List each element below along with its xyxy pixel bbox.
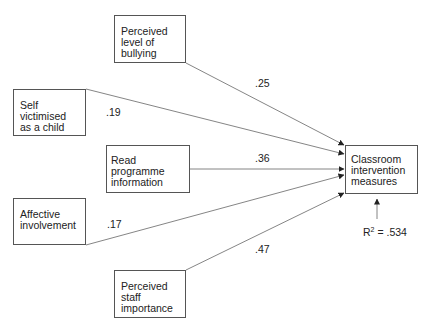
node-perceived-bullying: Perceived level of bullying bbox=[114, 15, 186, 63]
arrow-staff bbox=[186, 193, 344, 270]
coef-staff: .47 bbox=[255, 244, 270, 255]
coef-affective: .17 bbox=[107, 219, 122, 230]
coef-read: .36 bbox=[255, 153, 270, 164]
node-read-programme: Read programme information bbox=[106, 145, 190, 193]
node-self-victimised: Self victimised as a child bbox=[13, 89, 86, 136]
node-perceived-staff: Perceived staff importance bbox=[114, 270, 186, 318]
r-squared-label: R2 = .534 bbox=[363, 227, 407, 238]
coef-bullying: .25 bbox=[255, 78, 270, 89]
arrow-bullying bbox=[186, 63, 344, 145]
r-squared-prefix: R bbox=[363, 226, 371, 238]
r-squared-value: = .534 bbox=[375, 226, 407, 238]
node-classroom-intervention: Classroom intervention measures bbox=[345, 145, 418, 194]
node-affective-involvement: Affective involvement bbox=[13, 198, 86, 245]
coef-self: .19 bbox=[106, 107, 121, 118]
